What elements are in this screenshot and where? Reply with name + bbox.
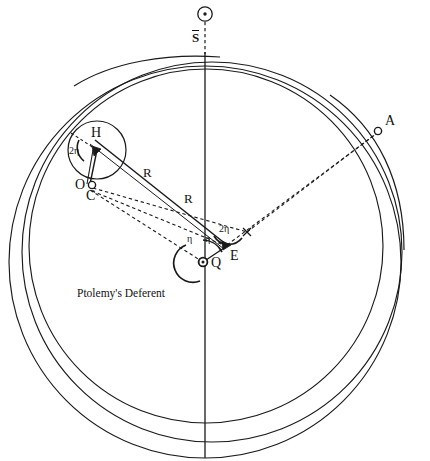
point-label-A: A bbox=[385, 114, 395, 128]
segment-label-R-outer: R bbox=[143, 166, 152, 179]
angle-label-center-2eta: 2η bbox=[219, 224, 229, 234]
angle-arc-eta-left bbox=[174, 245, 200, 282]
segment-label-R-inner: R bbox=[184, 192, 193, 205]
sun-label: S bbox=[192, 30, 199, 45]
point-label-H: H bbox=[91, 126, 101, 140]
point-marker-Q-inner bbox=[202, 261, 205, 264]
point-label-C: C bbox=[86, 189, 95, 203]
point-label-O: O bbox=[75, 178, 85, 192]
inner-deferent-circle bbox=[29, 69, 383, 423]
ptolemy-deferent-figure: S A H O C E Q R R 2η 2η η η Ptolemy's De… bbox=[0, 0, 430, 461]
mid-deferent-circle bbox=[22, 62, 402, 442]
diagram-canvas bbox=[0, 0, 430, 461]
point-marker-A bbox=[374, 127, 381, 134]
point-label-E: E bbox=[230, 249, 239, 263]
angle-label-eta-left: η bbox=[187, 234, 192, 244]
sun-icon-center-dot bbox=[203, 12, 206, 15]
point-label-Q: Q bbox=[211, 256, 221, 270]
radius-line-secondary bbox=[90, 144, 224, 249]
upper-left-arc-fragment bbox=[74, 56, 220, 86]
angle-label-epicycle-2eta: 2η bbox=[69, 146, 79, 156]
angle-label-eta-right: η bbox=[205, 234, 210, 244]
radius-line-H-to-E bbox=[95, 140, 227, 245]
dashed-E-to-A bbox=[227, 131, 380, 245]
deferent-caption: Ptolemy's Deferent bbox=[77, 288, 165, 300]
